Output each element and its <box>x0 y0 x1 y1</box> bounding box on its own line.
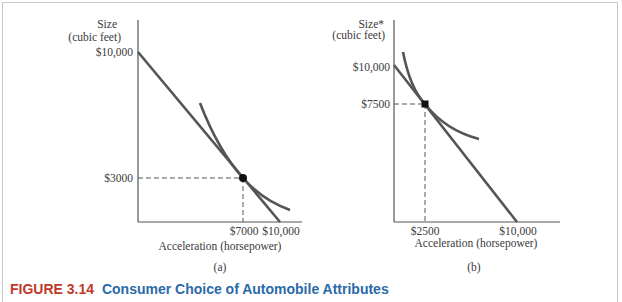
figure-title: Consumer Choice of Automobile Attributes <box>102 281 389 297</box>
panel-a: Size (cubic feet) $10,000 $3000 $7000 $1… <box>68 18 302 274</box>
x-axis-title-b: Acceleration (horsepower) <box>415 237 538 250</box>
y-axis-title-b-line2: (cubic feet) <box>332 29 385 42</box>
optimum-point-a <box>239 174 247 182</box>
optimum-point-b <box>422 101 429 108</box>
figure-number: FIGURE 3.14 <box>10 281 94 297</box>
panel-label-b: (b) <box>467 261 481 274</box>
x-tick-a-7000: $7000 <box>230 225 259 237</box>
x-axis-title-a: Acceleration (horsepower) <box>159 240 282 253</box>
y-tick-a-10000: $10,000 <box>96 46 134 59</box>
y-tick-a-3000: $3000 <box>104 172 133 184</box>
figure-caption: FIGURE 3.14 Consumer Choice of Automobil… <box>10 281 389 297</box>
x-tick-b-2500: $2500 <box>411 225 440 237</box>
y-axis-title-a-line1: Size <box>97 18 117 30</box>
indifference-curve-a <box>200 103 290 210</box>
panel-label-a: (a) <box>214 261 227 274</box>
y-tick-b-7500: $7500 <box>361 98 390 110</box>
y-tick-b-10000: $10,000 <box>353 61 391 74</box>
x-tick-a-10000: $10,000 <box>262 225 300 238</box>
y-axis-title-a-line2: (cubic feet) <box>68 31 121 44</box>
budget-line-b <box>394 65 517 222</box>
budget-line-a <box>138 52 280 222</box>
panel-b: Size* (cubic feet) $10,000 $7500 $2500 $… <box>332 18 560 274</box>
